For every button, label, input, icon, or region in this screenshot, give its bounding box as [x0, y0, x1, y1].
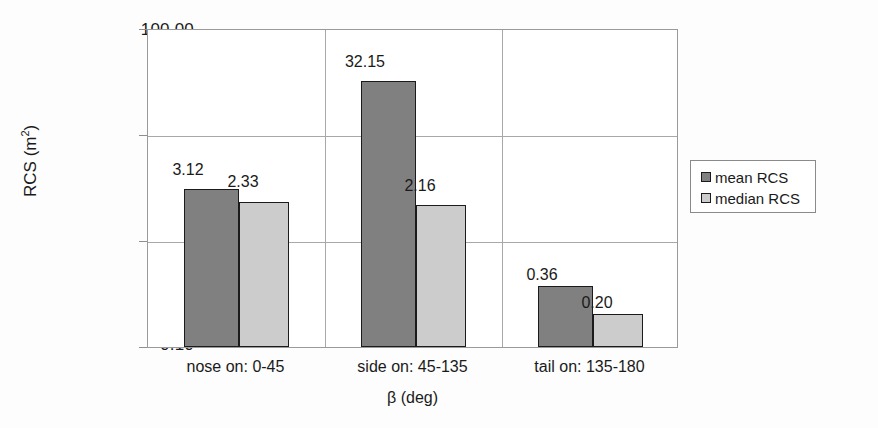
gridline-vertical-1 [325, 30, 326, 347]
bar-median-side-on[interactable] [416, 205, 466, 347]
value-label-mean-tail-on: 0.36 [502, 266, 582, 284]
y-tick-mark-0-1 [139, 347, 147, 348]
value-label-mean-side-on: 32.15 [325, 53, 405, 71]
y-tick-mark-10 [139, 135, 147, 136]
bar-median-tail-on[interactable] [593, 314, 643, 347]
legend-label-mean-rcs: mean RCS [715, 170, 788, 185]
legend-swatch-median-icon [701, 193, 711, 203]
x-axis-title: β (deg) [147, 389, 678, 407]
x-category-label-nose-on: nose on: 0-45 [147, 358, 324, 376]
y-axis-title: RCS (m2) [19, 91, 41, 231]
legend-label-median-rcs: median RCS [715, 191, 800, 206]
legend-item-median-rcs[interactable]: median RCS [701, 188, 815, 208]
value-label-median-nose-on: 2.33 [203, 173, 283, 191]
y-axis-title-base: RCS (m [21, 137, 40, 197]
y-tick-mark-100 [139, 29, 147, 30]
gridline-vertical-2 [502, 30, 503, 347]
legend-item-mean-rcs[interactable]: mean RCS [701, 167, 815, 187]
bar-mean-side-on[interactable] [361, 81, 416, 347]
y-axis-title-exponent: 2 [19, 130, 31, 136]
bar-mean-nose-on[interactable] [184, 189, 239, 347]
value-label-median-side-on: 2.16 [380, 177, 460, 195]
y-tick-mark-1 [139, 241, 147, 242]
legend: mean RCS median RCS [690, 160, 816, 213]
x-category-label-tail-on: tail on: 135-180 [501, 358, 678, 376]
legend-swatch-mean-icon [701, 172, 711, 182]
value-label-median-tail-on: 0.20 [557, 294, 637, 312]
rcs-bar-chart-figure: RCS (m2) 100.00 10.00 1.00 0.10 3.12 2.3… [0, 0, 878, 428]
x-category-label-side-on: side on: 45-135 [324, 358, 501, 376]
bar-median-nose-on[interactable] [239, 202, 289, 347]
y-axis-title-close: ) [21, 125, 40, 131]
